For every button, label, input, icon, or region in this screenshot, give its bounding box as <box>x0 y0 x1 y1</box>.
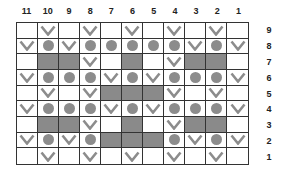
grid-cell <box>164 23 185 39</box>
grid-cell <box>227 23 248 39</box>
grid-cell <box>38 148 59 164</box>
grid-cell <box>227 117 248 133</box>
dot-icon <box>190 103 201 114</box>
grid-cell <box>80 133 101 149</box>
column-label: 3 <box>186 5 207 17</box>
column-labels: 1110987654321 <box>16 5 249 17</box>
dot-icon <box>127 72 138 83</box>
row-label: 5 <box>262 86 276 102</box>
row-label: 7 <box>262 54 276 70</box>
dot-icon <box>169 103 180 114</box>
grid-cell-filled <box>122 86 143 102</box>
grid-cell <box>59 133 80 149</box>
column-label: 4 <box>164 5 185 17</box>
grid-cell <box>185 39 206 55</box>
v-mark-icon <box>19 134 35 145</box>
v-mark-icon <box>61 40 77 51</box>
dot-icon <box>127 103 138 114</box>
grid-cell <box>122 101 143 117</box>
row-label: 1 <box>262 149 276 165</box>
v-mark-icon <box>103 103 119 114</box>
v-mark-icon <box>40 25 56 36</box>
grid-cell <box>38 101 59 117</box>
v-mark-icon <box>82 87 98 98</box>
grid-cell <box>17 86 38 102</box>
grid-cell-filled <box>59 54 80 70</box>
dot-icon <box>43 40 54 51</box>
grid-cell <box>17 70 38 86</box>
v-mark-icon <box>187 134 203 145</box>
dot-icon <box>190 72 201 83</box>
grid-cell <box>227 148 248 164</box>
v-mark-icon <box>230 72 246 83</box>
dot-icon <box>169 134 180 145</box>
grid-cell <box>59 86 80 102</box>
column-label: 6 <box>122 5 143 17</box>
dot-icon <box>169 72 180 83</box>
grid-cell <box>122 23 143 39</box>
dot-icon <box>211 40 222 51</box>
grid-cell <box>227 54 248 70</box>
column-label: 8 <box>80 5 101 17</box>
column-label: 5 <box>143 5 164 17</box>
v-mark-icon <box>124 151 140 162</box>
grid-cell <box>17 101 38 117</box>
grid-cell-filled <box>59 117 80 133</box>
grid-cell <box>101 70 122 86</box>
dot-icon <box>85 103 96 114</box>
grid-cell <box>143 39 164 55</box>
v-mark-icon <box>82 56 98 67</box>
grid-cell <box>101 39 122 55</box>
grid-cell <box>38 23 59 39</box>
dot-icon <box>211 134 222 145</box>
grid-cell <box>17 148 38 164</box>
v-mark-icon <box>82 119 98 130</box>
v-mark-icon <box>208 151 224 162</box>
grid-cell <box>17 117 38 133</box>
grid-cell-filled <box>143 133 164 149</box>
grid-cell <box>227 86 248 102</box>
v-mark-icon <box>124 25 140 36</box>
grid-cell-filled <box>38 54 59 70</box>
grid-cell <box>80 101 101 117</box>
grid-cell-filled <box>38 117 59 133</box>
v-mark-icon <box>19 103 35 114</box>
v-mark-icon <box>230 134 246 145</box>
grid-cell <box>122 148 143 164</box>
column-label: 11 <box>16 5 37 17</box>
grid-cell <box>143 70 164 86</box>
row-label: 3 <box>262 117 276 133</box>
v-mark-icon <box>166 151 182 162</box>
v-mark-icon <box>166 119 182 130</box>
grid-cell <box>143 54 164 70</box>
grid-cell <box>80 148 101 164</box>
grid-cell <box>185 133 206 149</box>
v-mark-icon <box>40 87 56 98</box>
dot-icon <box>43 72 54 83</box>
grid-cell-filled <box>101 133 122 149</box>
grid-cell <box>206 23 227 39</box>
grid-cell <box>185 101 206 117</box>
v-mark-icon <box>82 151 98 162</box>
grid-cell <box>164 39 185 55</box>
grid-cell-filled <box>185 117 206 133</box>
v-mark-icon <box>145 72 161 83</box>
dot-icon <box>169 40 180 51</box>
v-mark-icon <box>166 56 182 67</box>
grid-cell <box>59 23 80 39</box>
grid-cell <box>206 133 227 149</box>
grid-cell <box>164 54 185 70</box>
row-label: 8 <box>262 38 276 54</box>
dot-icon <box>85 134 96 145</box>
grid-cell <box>80 117 101 133</box>
grid-cell <box>164 70 185 86</box>
grid-cell <box>101 117 122 133</box>
grid-cell <box>101 54 122 70</box>
dot-icon <box>211 72 222 83</box>
grid-cell <box>122 39 143 55</box>
row-label: 9 <box>262 22 276 38</box>
v-mark-icon <box>230 40 246 51</box>
grid-cell <box>17 133 38 149</box>
dot-icon <box>64 72 75 83</box>
grid-cell <box>59 148 80 164</box>
